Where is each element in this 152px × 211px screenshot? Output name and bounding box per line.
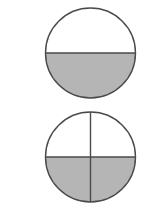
circle-quarters-figure <box>46 112 136 202</box>
fraction-diagram <box>0 0 152 211</box>
shaded-bottom-half <box>46 53 136 98</box>
circle-halves-figure <box>46 8 136 98</box>
